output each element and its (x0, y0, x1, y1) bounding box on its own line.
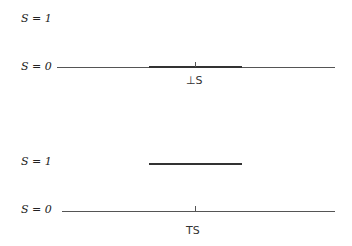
bottom-caption: TS (186, 224, 200, 237)
bottom-segment (149, 163, 242, 165)
bottom-s0-label: S = 0 (21, 203, 52, 216)
top-s0-label: S = 0 (21, 60, 52, 73)
top-caption: ⊥S (186, 74, 203, 87)
top-s1-label: S = 1 (21, 12, 52, 25)
bottom-baseline (62, 211, 335, 212)
bottom-s1-label: S = 1 (21, 155, 52, 168)
top-tick (195, 62, 196, 67)
bottom-tick (195, 206, 196, 211)
